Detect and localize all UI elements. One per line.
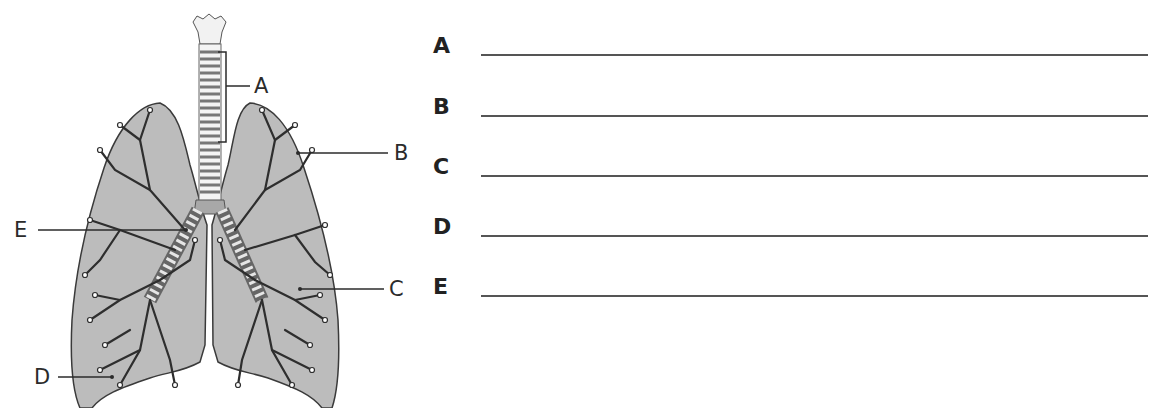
answer-line-b[interactable]	[481, 115, 1148, 117]
callout-label-d: D	[34, 367, 50, 388]
lung-diagram: A B C D E	[0, 0, 430, 408]
answer-row-a: A	[430, 33, 1150, 73]
answer-letter: E	[433, 274, 448, 299]
answer-list: A B C D E	[430, 0, 1150, 408]
answer-letter: C	[433, 154, 449, 179]
callout-label-c: C	[389, 279, 404, 300]
callout-label-b: B	[394, 143, 408, 164]
answer-line-a[interactable]	[481, 54, 1148, 56]
answer-letter: D	[433, 214, 451, 239]
answer-row-d: D	[430, 214, 1150, 254]
lungs-illustration	[0, 0, 430, 408]
answer-line-e[interactable]	[481, 295, 1148, 297]
answer-letter: B	[433, 94, 450, 119]
answer-row-e: E	[430, 274, 1150, 314]
answer-row-b: B	[430, 94, 1150, 134]
answer-line-c[interactable]	[481, 175, 1148, 177]
callout-label-e: E	[14, 220, 27, 241]
answer-letter: A	[433, 33, 450, 58]
answer-row-c: C	[430, 154, 1150, 194]
callout-label-a: A	[254, 76, 268, 97]
answer-line-d[interactable]	[481, 235, 1148, 237]
